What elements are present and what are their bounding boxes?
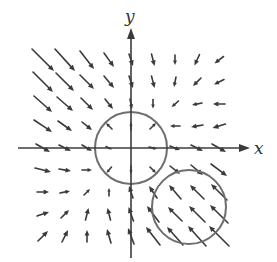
- vector-arrow-icon: [34, 120, 52, 132]
- vector-arrow-icon: [211, 164, 227, 176]
- vector-arrow-icon: [84, 189, 90, 195]
- vector-arrow-icon: [105, 99, 113, 109]
- vector-arrow-icon: [37, 190, 49, 195]
- vector-arrow-icon: [58, 121, 72, 131]
- vector-arrow-icon: [32, 49, 54, 71]
- vector-arrow-icon: [191, 124, 203, 129]
- vector-arrow-icon: [81, 98, 93, 110]
- vector-arrow-icon: [82, 122, 92, 130]
- vector-arrow-icon: [62, 230, 68, 242]
- vector-arrow-icon: [213, 102, 225, 107]
- vector-arrow-icon: [173, 77, 177, 87]
- y-axis-arrowhead-icon: [127, 28, 135, 39]
- vector-arrow-icon: [169, 185, 181, 199]
- vector-arrow-icon: [192, 102, 202, 106]
- vector-arrow-icon: [82, 168, 92, 172]
- vector-arrow-icon: [215, 57, 224, 64]
- vector-arrow-icon: [34, 96, 52, 112]
- vector-arrow-icon: [85, 230, 90, 242]
- vector-arrow-icon: [35, 168, 51, 173]
- vector-arrow-icon: [106, 229, 111, 243]
- vector-arrow-icon: [80, 51, 94, 69]
- vector-arrow-icon: [60, 190, 70, 194]
- vector-arrow-icon: [80, 75, 94, 89]
- vector-arrow-icon: [61, 210, 69, 218]
- vector-arrow-icon: [168, 207, 182, 221]
- vector-arrow-icon: [104, 53, 114, 67]
- vector-arrow-icon: [173, 55, 177, 65]
- vector-arrow-icon: [106, 123, 112, 129]
- vector-arrow-icon: [151, 100, 155, 109]
- vector-arrow-icon: [195, 55, 200, 66]
- vector-arrow-icon: [213, 124, 226, 129]
- vector-arrow-icon: [151, 54, 156, 66]
- vector-arrow-icon: [107, 167, 112, 173]
- axes: x y: [18, 6, 264, 258]
- y-axis-label: y: [124, 6, 135, 26]
- vector-arrow-icon: [146, 227, 160, 245]
- vector-arrow-icon: [151, 76, 156, 88]
- vector-arrow-icon: [107, 188, 110, 196]
- vector-arrow-icon: [57, 97, 73, 111]
- vector-arrow-icon: [104, 76, 114, 88]
- vector-arrow-icon: [172, 101, 179, 107]
- vector-arrow-icon: [59, 168, 71, 173]
- vector-arrow-icon: [33, 72, 53, 92]
- vector-arrow-icon: [189, 206, 205, 222]
- x-axis-label: x: [254, 138, 264, 158]
- vector-arrow-icon: [38, 231, 48, 241]
- vector-arrow-icon: [214, 80, 224, 85]
- vector-arrow-icon: [56, 73, 74, 91]
- vector-arrow-icon: [37, 211, 49, 216]
- circles: [95, 112, 226, 244]
- vector-field-diagram: x y: [0, 0, 277, 262]
- vector-arrow-icon: [193, 78, 201, 86]
- vector-arrow-icon: [106, 208, 111, 220]
- vector-arrow-icon: [170, 124, 180, 128]
- vector-arrow-icon: [150, 123, 156, 129]
- vector-arrow-icon: [85, 208, 90, 220]
- vector-arrow-icon: [150, 167, 156, 173]
- vector-arrow-icon: [190, 185, 204, 199]
- x-axis-arrowhead-icon: [239, 144, 250, 152]
- vector-arrow-icon: [55, 49, 75, 71]
